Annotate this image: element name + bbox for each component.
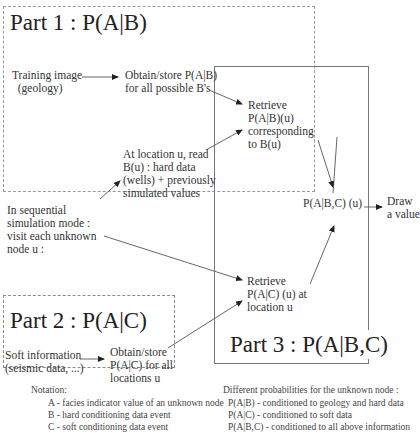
notation-heading: Notation: xyxy=(31,384,67,397)
node-training-image: Training image (geology) xyxy=(12,69,82,95)
probability-item-pab: P(A|B) - conditioned to geology and hard… xyxy=(228,397,404,410)
probability-item-pabc: P(A|B,C) - conditioned to all above info… xyxy=(228,421,410,433)
part3-title: Part 3 : P(A|B,C) xyxy=(226,330,394,359)
node-sequential: In sequential simulation mode : visit ea… xyxy=(7,204,96,256)
part1-title: Part 1 : P(A|B) xyxy=(6,8,153,37)
part2-title: Part 2 : P(A|C) xyxy=(6,306,153,335)
node-soft-info: Soft information (seismic data, ...) xyxy=(5,349,84,375)
probability-item-pac: P(A|C) - conditioned to soft data xyxy=(228,409,352,422)
probabilities-heading: Different probabilities for the unknown … xyxy=(223,384,399,397)
node-obtain-pac: Obtain/store P(A|C) for all locations u xyxy=(110,346,173,385)
node-obtain-pab: Obtain/store P(A|B) for all possible B's xyxy=(125,69,217,95)
node-retrieve-pac: Retrieve P(A|C) (u) at location u xyxy=(247,275,307,314)
notation-item-a: A - facies indicator value of an unknown… xyxy=(48,397,224,410)
node-retrieve-pab: Retrieve P(A|B)(u) corresponding to B(u) xyxy=(248,99,314,151)
notation-item-b: B - hard conditioning data event xyxy=(48,409,171,422)
notation-item-c: C - soft conditioning data event xyxy=(48,421,168,433)
node-pabc: P(A|B,C) (u) xyxy=(303,197,362,210)
node-read-bu: At location u, read B(u) : hard data (we… xyxy=(123,148,216,200)
node-draw: Draw a value xyxy=(387,195,420,221)
